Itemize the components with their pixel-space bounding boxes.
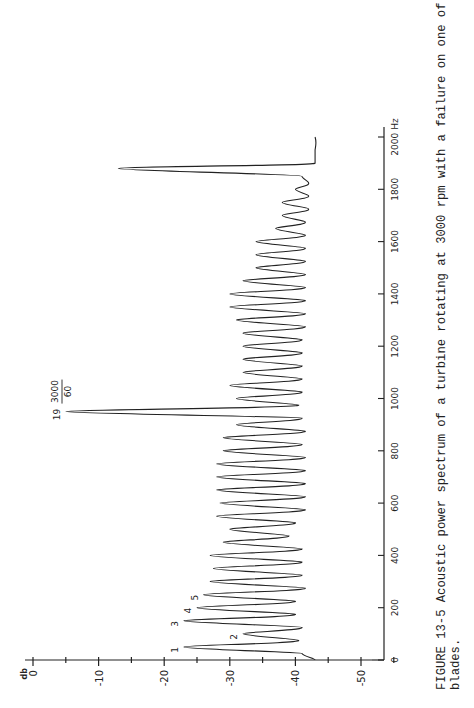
frequency-tick-label: 400 bbox=[390, 547, 400, 564]
spectrum-curve bbox=[66, 137, 316, 660]
frequency-tick-label: 1200 bbox=[390, 334, 400, 357]
caption-line-2: blades. bbox=[449, 639, 463, 690]
peak-label: 2 bbox=[229, 634, 239, 640]
db-tick-label: -40 bbox=[290, 670, 301, 686]
peak-label: 1 bbox=[170, 647, 180, 653]
frequency-tick-label: 200 bbox=[390, 599, 400, 616]
fraction-denominator: 60 bbox=[63, 386, 73, 398]
fraction-numerator: 3000 bbox=[50, 380, 60, 403]
frequency-tick-label: 0 bbox=[390, 657, 400, 663]
annotations: 1234519300060 bbox=[50, 380, 239, 653]
spectrum-chart: 0-10-20-30-40-50db0200400600800100012001… bbox=[0, 0, 474, 708]
peak-label: 3 bbox=[170, 621, 180, 627]
frequency-tick-label: 1000 bbox=[390, 387, 400, 410]
axes: 0-10-20-30-40-50db0200400600800100012001… bbox=[20, 118, 400, 686]
frequency-tick-label: 1800 bbox=[390, 178, 400, 201]
peak-label: 19 bbox=[52, 409, 62, 421]
db-tick-label: 0 bbox=[28, 670, 39, 676]
db-unit-label: db bbox=[20, 668, 29, 680]
frequency-tick-label: 800 bbox=[390, 442, 400, 459]
db-tick-label: -20 bbox=[159, 670, 170, 686]
peak-label: 4 bbox=[183, 608, 193, 614]
caption-line-1: FIGURE 13-5 Acoustic power spectrum of a… bbox=[435, 0, 449, 690]
figure-caption: FIGURE 13-5 Acoustic power spectrum of a… bbox=[435, 0, 463, 690]
db-tick-label: -50 bbox=[356, 670, 367, 686]
frequency-tick-label: 2000 Hz bbox=[390, 118, 400, 156]
peak-label: 5 bbox=[190, 595, 200, 601]
db-tick-label: -10 bbox=[94, 670, 105, 686]
frequency-tick-label: 1400 bbox=[390, 282, 400, 305]
frequency-tick-label: 600 bbox=[390, 494, 400, 511]
db-tick-label: -30 bbox=[225, 670, 236, 686]
frequency-tick-label: 1600 bbox=[390, 230, 400, 253]
